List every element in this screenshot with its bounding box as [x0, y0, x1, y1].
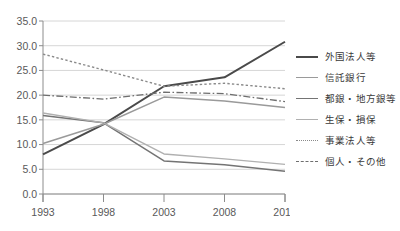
x-axis-tick-label: 2003 — [152, 206, 176, 218]
y-axis-tick-label: 25.0 — [17, 64, 38, 76]
y-axis-tick-label: 5.0 — [22, 163, 37, 175]
y-axis-tick-label: 15.0 — [17, 114, 38, 126]
x-axis-tick-label: 2008 — [213, 206, 237, 218]
legend-swatch-icon — [296, 161, 318, 162]
legend-swatch-icon — [296, 119, 318, 120]
y-axis-tick-label: 20.0 — [17, 89, 38, 101]
legend-item-生保・損保[interactable]: 生保・損保 — [296, 109, 396, 130]
x-axis-tick-label: 1993 — [31, 206, 55, 218]
legend-item-label: 都銀・地方銀等 — [325, 94, 396, 104]
legend-item-都銀・地方銀等[interactable]: 都銀・地方銀等 — [296, 88, 396, 109]
x-axis-tick-label: 1998 — [92, 206, 116, 218]
legend-item-個人・その他[interactable]: 個人・その他 — [296, 151, 396, 172]
legend-item-label: 個人・その他 — [325, 157, 386, 167]
series-line-都銀・地方銀等 — [43, 115, 285, 171]
legend-swatch-icon — [296, 77, 318, 78]
line-chart: 0.05.010.015.020.025.030.035.01993199820… — [0, 0, 400, 231]
series-line-事業法人等 — [43, 54, 285, 89]
legend-item-label: 事業法人等 — [325, 136, 376, 146]
y-axis-tick-label: 10.0 — [17, 138, 38, 150]
legend-swatch-icon — [296, 56, 318, 58]
chart-canvas: 0.05.010.015.020.025.030.035.01993199820… — [0, 0, 290, 231]
plot-area: 0.05.010.015.020.025.030.035.01993199820… — [0, 0, 290, 231]
legend-item-label: 外国法人等 — [325, 52, 376, 62]
legend-item-label: 信託銀行 — [325, 73, 366, 83]
series-line-生保・損保 — [43, 113, 285, 164]
legend-item-label: 生保・損保 — [325, 115, 376, 125]
chart-legend: 外国法人等信託銀行都銀・地方銀等生保・損保事業法人等個人・その他 — [296, 46, 396, 172]
x-axis-tick-label: 2013 — [273, 206, 290, 218]
y-axis-tick-label: 0.0 — [22, 188, 37, 200]
y-axis-tick-label: 30.0 — [17, 40, 38, 52]
legend-item-事業法人等[interactable]: 事業法人等 — [296, 130, 396, 151]
legend-swatch-icon — [296, 98, 318, 99]
legend-item-外国法人等[interactable]: 外国法人等 — [296, 46, 396, 67]
y-axis-tick-label: 35.0 — [17, 15, 38, 27]
legend-item-信託銀行[interactable]: 信託銀行 — [296, 67, 396, 88]
legend-swatch-icon — [296, 140, 318, 141]
